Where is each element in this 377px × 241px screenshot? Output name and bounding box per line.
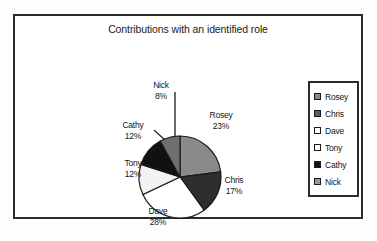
pie-label-dave: Dave 28% [133, 206, 183, 227]
chart-legend: RoseyChrisDaveTonyCathyNick [308, 81, 359, 197]
legend-label: Tony [325, 143, 342, 153]
pie-label-rosey-name: Rosey [209, 110, 232, 120]
legend-item-rosey[interactable]: Rosey [314, 88, 355, 105]
pie-label-cathy-percent: 12% [109, 131, 157, 142]
pie-label-chris-percent: 17% [211, 186, 257, 197]
pie-label-chris: Chris 17% [211, 175, 257, 196]
pie-label-nick-name: Nick [153, 80, 169, 90]
legend-swatch-icon [314, 161, 321, 168]
legend-item-dave[interactable]: Dave [314, 122, 355, 139]
legend-item-nick[interactable]: Nick [314, 173, 355, 190]
pie-label-rosey-percent: 23% [195, 121, 247, 132]
legend-swatch-icon [314, 144, 321, 151]
legend-label: Nick [325, 177, 341, 187]
pie-label-cathy-name: Cathy [122, 120, 143, 130]
legend-item-cathy[interactable]: Cathy [314, 156, 355, 173]
pie-label-nick: Nick 8% [141, 80, 181, 101]
pie-label-nick-percent: 8% [141, 91, 181, 102]
legend-label: Chris [325, 109, 344, 119]
legend-item-chris[interactable]: Chris [314, 105, 355, 122]
page-background: Contributions with an identified role Ro… [0, 0, 377, 241]
pie-chart-svg [15, 34, 307, 219]
pie-label-chris-name: Chris [225, 175, 244, 185]
pie-label-dave-name: Dave [148, 206, 167, 216]
pie-slice-rosey[interactable] [180, 136, 221, 177]
legend-label: Dave [325, 126, 344, 136]
legend-swatch-icon [314, 93, 321, 100]
legend-swatch-icon [314, 110, 321, 117]
chart-frame: Contributions with an identified role Ro… [13, 14, 363, 219]
pie-label-tony-percent: 12% [111, 169, 155, 180]
legend-label: Cathy [325, 160, 346, 170]
pie-label-tony-name: Tony [124, 158, 141, 168]
pie-plot-area: Rosey 23% Chris 17% Dave 28% Tony 12% Ca… [15, 34, 307, 219]
legend-item-tony[interactable]: Tony [314, 139, 355, 156]
legend-swatch-icon [314, 127, 321, 134]
pie-label-rosey: Rosey 23% [195, 110, 247, 131]
pie-label-cathy: Cathy 12% [109, 120, 157, 141]
legend-swatch-icon [314, 178, 321, 185]
pie-label-dave-percent: 28% [133, 217, 183, 228]
pie-label-tony: Tony 12% [111, 158, 155, 179]
legend-label: Rosey [325, 92, 348, 102]
